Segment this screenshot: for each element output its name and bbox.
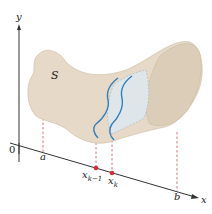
x-axis-label: x (201, 195, 207, 205)
solid-label: S (51, 70, 59, 81)
a-label: a (40, 152, 46, 162)
origin-label: 0 (9, 145, 15, 155)
y-axis-arrow-icon (17, 24, 21, 30)
y-axis-label: y (16, 12, 22, 22)
x-axis (10, 143, 195, 197)
x-axis-arrow-icon (191, 194, 199, 199)
b-label: b (174, 192, 180, 202)
x-k-label: xk (108, 176, 118, 189)
solid-volume-diagram (0, 0, 212, 214)
x-k-minus-1-label: xk−1 (82, 170, 102, 183)
